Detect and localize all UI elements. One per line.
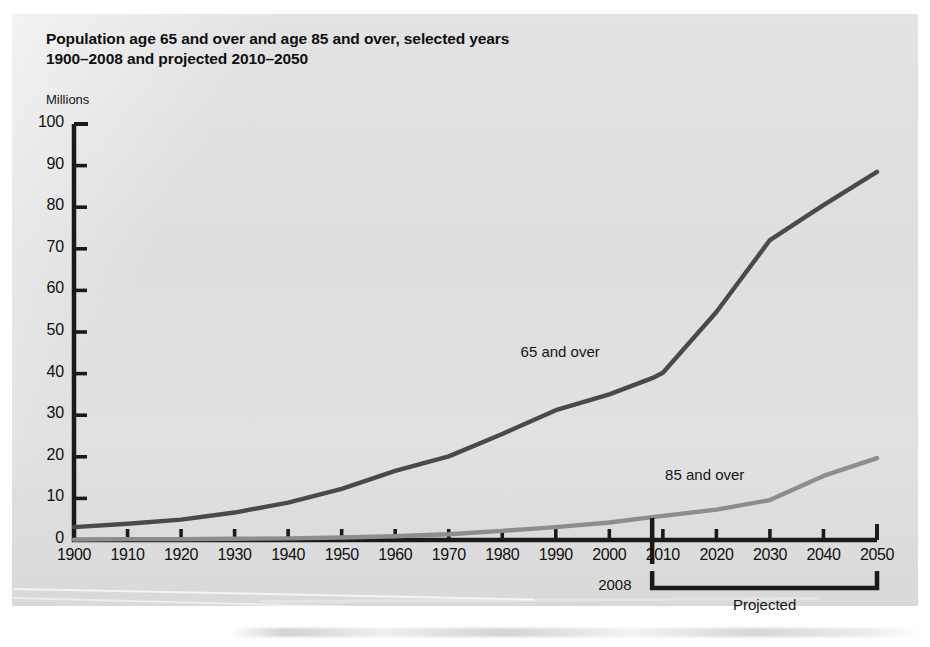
- y-axis-tick-label: 30: [24, 404, 64, 422]
- y-axis-tick-label: 60: [24, 279, 64, 297]
- scanned-page: Population age 65 and over and age 85 an…: [0, 0, 930, 647]
- projected-bracket-shape: [652, 571, 877, 588]
- series-line-85-and-over: [74, 458, 877, 540]
- y-axis-tick-label: 0: [24, 529, 64, 547]
- y-axis-tick-label: 70: [24, 238, 64, 256]
- x-axis-tick-label: 2040: [793, 546, 853, 564]
- y-axis-tick-label: 100: [24, 113, 64, 131]
- y-axis-tick-label: 50: [24, 321, 64, 339]
- x-axis-tick-label: 1920: [151, 546, 211, 564]
- x-axis-tick-label: 1980: [472, 546, 532, 564]
- projected-bracket-label: Projected: [665, 596, 865, 613]
- x-axis-tick-label: 1910: [98, 546, 158, 564]
- chart-plot-area: Millions 0102030405060708090100 19001910…: [0, 0, 930, 647]
- chart-axes: [74, 124, 877, 540]
- y-axis-tick-label: 20: [24, 446, 64, 464]
- series-label-65-and-over: 65 and over: [521, 343, 600, 360]
- x-axis-tick-label: 1970: [419, 546, 479, 564]
- x-axis-tick-label: 1990: [526, 546, 586, 564]
- series-label-85-and-over: 85 and over: [665, 466, 744, 483]
- y-axis-tick-label: 80: [24, 196, 64, 214]
- y-axis-unit-label: Millions: [46, 92, 89, 107]
- x-axis-tick-label: 1940: [258, 546, 318, 564]
- x-axis-tick-label: 1960: [365, 546, 425, 564]
- x-axis-tick-label: 2010: [633, 546, 693, 564]
- series-line-65-and-over: [74, 172, 877, 527]
- x-axis-tick-label: 2050: [847, 546, 907, 564]
- x-axis-tick-label: 2000: [579, 546, 639, 564]
- x-axis-tick-label: 1950: [312, 546, 372, 564]
- chart-series-group: [74, 172, 877, 540]
- x-axis-tick-label: 2020: [686, 546, 746, 564]
- x-axis-tick-label: 1930: [205, 546, 265, 564]
- x-axis-tick-label: 2030: [740, 546, 800, 564]
- y-axis-tick-label: 40: [24, 363, 64, 381]
- x-axis-tick-label: 1900: [44, 546, 104, 564]
- y-axis-tick-label: 10: [24, 487, 64, 505]
- y-axis-tick-label: 90: [24, 155, 64, 173]
- divider-year-label: 2008: [598, 576, 631, 593]
